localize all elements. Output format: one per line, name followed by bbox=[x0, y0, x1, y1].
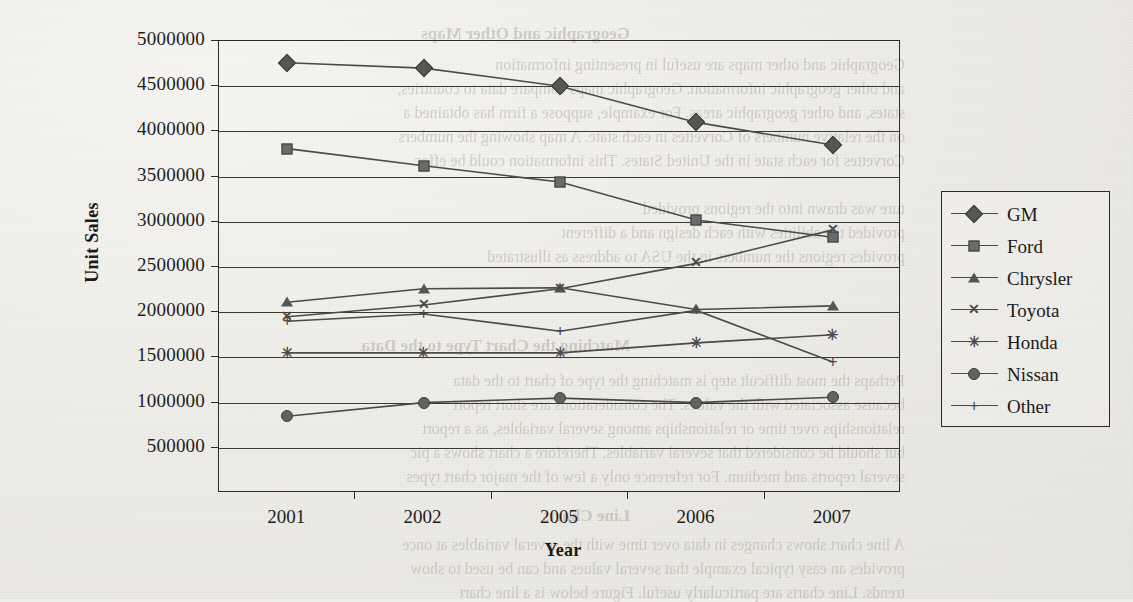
y-axis-tick-label: 1500000 bbox=[30, 344, 205, 366]
series-line-ford bbox=[287, 149, 833, 238]
series-line-toyota bbox=[287, 230, 833, 317]
plus-marker-icon: + bbox=[969, 398, 979, 415]
legend-line bbox=[951, 245, 998, 246]
x-axis-tick-mark bbox=[764, 492, 765, 499]
x-axis-tick-mark bbox=[354, 492, 355, 499]
y-axis-tick-mark bbox=[211, 130, 218, 131]
legend-item-gm[interactable]: GM bbox=[942, 198, 1109, 230]
x-axis-tick-mark bbox=[491, 492, 492, 499]
y-axis-tick-label: 5000000 bbox=[30, 28, 205, 50]
y-axis-tick-label: 500000 bbox=[30, 435, 205, 457]
y-axis-tick-mark bbox=[211, 221, 218, 222]
x-axis-tick-label: 2005 bbox=[514, 506, 604, 528]
y-axis-tick-mark bbox=[211, 402, 218, 403]
y-axis-tick-mark bbox=[211, 176, 218, 177]
cross-marker-icon: ✕ bbox=[968, 303, 980, 317]
legend-line bbox=[951, 277, 998, 278]
legend-line bbox=[951, 213, 998, 214]
legend-swatch: + bbox=[951, 400, 998, 412]
y-axis-tick-label: 4500000 bbox=[30, 73, 205, 95]
legend-item-ford[interactable]: Ford bbox=[942, 230, 1109, 262]
legend-swatch bbox=[951, 272, 998, 284]
legend-line bbox=[951, 373, 998, 374]
legend-swatch bbox=[951, 208, 998, 220]
series-lines bbox=[219, 41, 901, 493]
legend-label: Honda bbox=[1007, 333, 1058, 352]
plot-area: ✕✕✕✕✕✳✳✳✳✳+++++ bbox=[218, 40, 900, 492]
x-axis-tick-label: 2007 bbox=[787, 506, 877, 528]
legend-item-toyota[interactable]: ✕Toyota bbox=[942, 294, 1109, 326]
y-axis-tick-label: 2500000 bbox=[30, 254, 205, 276]
y-axis-tick-label: 2000000 bbox=[30, 299, 205, 321]
series-line-chrysler bbox=[287, 288, 833, 310]
y-axis-tick-label: 1000000 bbox=[30, 390, 205, 412]
x-axis-tick-mark bbox=[627, 492, 628, 499]
y-axis-tick-mark bbox=[211, 311, 218, 312]
x-axis-tick-label: 2001 bbox=[241, 506, 331, 528]
legend-swatch: ✕ bbox=[951, 304, 998, 316]
chart-legend: GMFordChrysler✕Toyota✳HondaNissan+Other bbox=[941, 191, 1110, 427]
legend-swatch bbox=[951, 240, 998, 252]
legend-line bbox=[951, 405, 998, 406]
legend-line bbox=[951, 341, 998, 342]
legend-label: Nissan bbox=[1007, 365, 1059, 384]
y-axis-tick-mark bbox=[211, 356, 218, 357]
series-line-gm bbox=[287, 63, 833, 145]
legend-item-chrysler[interactable]: Chrysler bbox=[942, 262, 1109, 294]
y-axis-tick-label: 3000000 bbox=[30, 209, 205, 231]
legend-item-nissan[interactable]: Nissan bbox=[942, 358, 1109, 390]
legend-label: Ford bbox=[1007, 237, 1043, 256]
x-axis-title: Year bbox=[473, 540, 653, 561]
y-axis-tick-mark bbox=[211, 266, 218, 267]
legend-label: Chrysler bbox=[1007, 269, 1072, 288]
asterisk-marker-icon: ✳ bbox=[968, 335, 981, 350]
legend-swatch bbox=[951, 368, 998, 380]
legend-swatch: ✳ bbox=[951, 336, 998, 348]
legend-label: Toyota bbox=[1007, 301, 1060, 320]
square-marker-icon bbox=[969, 241, 980, 252]
x-axis-tick-label: 2006 bbox=[650, 506, 740, 528]
legend-label: Other bbox=[1007, 397, 1050, 416]
y-axis-tick-label: 3500000 bbox=[30, 164, 205, 186]
series-line-honda bbox=[287, 335, 833, 353]
series-line-nissan bbox=[287, 397, 833, 416]
legend-line bbox=[951, 309, 998, 310]
y-axis-tick-mark bbox=[211, 40, 218, 41]
y-axis-tick-mark bbox=[211, 447, 218, 448]
series-line-other bbox=[287, 310, 833, 362]
legend-label: GM bbox=[1007, 205, 1038, 224]
legend-item-other[interactable]: +Other bbox=[942, 390, 1109, 422]
circle-marker-icon bbox=[968, 368, 980, 380]
y-axis-tick-mark bbox=[211, 85, 218, 86]
x-axis-tick-label: 2002 bbox=[378, 506, 468, 528]
diamond-marker-icon bbox=[965, 205, 983, 223]
y-axis-tick-label: 4000000 bbox=[30, 118, 205, 140]
legend-item-honda[interactable]: ✳Honda bbox=[942, 326, 1109, 358]
